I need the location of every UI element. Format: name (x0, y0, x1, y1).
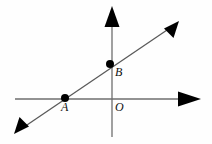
line-ab-group (14, 21, 179, 134)
point-b-label: B (115, 66, 122, 78)
line-ab-arrowhead-upper-right-icon (164, 21, 179, 38)
x-axis-group (15, 92, 201, 107)
figure-canvas (0, 0, 212, 144)
point-b-dot (106, 60, 114, 68)
line-ab-arrowhead-lower-left-icon (14, 117, 29, 134)
origin-label: O (115, 101, 124, 113)
line-ab-segment (24, 28, 170, 127)
y-axis-arrowhead-icon (105, 6, 120, 27)
x-axis-arrowhead-icon (178, 92, 201, 107)
point-a-label: A (61, 101, 68, 113)
geometry-figure: A B O (0, 0, 212, 144)
